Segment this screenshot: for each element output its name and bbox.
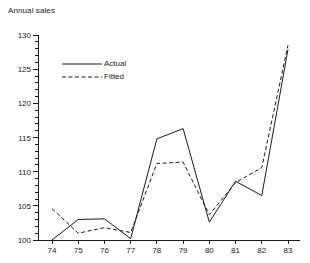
annual-sales-chart: Annual sales 100105110115120125130747576… <box>0 0 310 263</box>
y-axis-tick-label: 110 <box>18 167 31 176</box>
y-axis-tick-label: 105 <box>18 201 31 210</box>
x-axis-tick-label: 83 <box>284 246 293 255</box>
x-axis-tick-label: 81 <box>231 246 240 255</box>
series-line-fitted <box>52 45 288 233</box>
x-axis-tick-label: 79 <box>179 246 188 255</box>
x-axis-tick-label: 76 <box>100 246 109 255</box>
x-axis-tick-label: 75 <box>74 246 83 255</box>
y-axis-tick-label: 120 <box>18 99 31 108</box>
x-axis-tick-label: 77 <box>126 246 135 255</box>
legend-label-fitted: Fitted <box>104 72 124 81</box>
y-axis-tick-label: 115 <box>18 133 31 142</box>
y-axis-tick-label: 125 <box>18 65 31 74</box>
x-axis-tick-label: 82 <box>257 246 266 255</box>
x-axis-tick-label: 78 <box>152 246 161 255</box>
series-line-actual <box>52 49 288 240</box>
x-axis-tick-label: 80 <box>205 246 214 255</box>
plot-area <box>0 0 310 263</box>
y-axis-tick-label: 130 <box>18 31 31 40</box>
y-axis-tick-label: 100 <box>18 236 31 245</box>
legend-label-actual: Actual <box>104 59 126 68</box>
x-axis-tick-label: 74 <box>48 246 57 255</box>
